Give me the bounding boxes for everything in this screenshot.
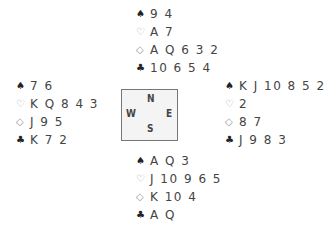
diamond-icon: ◇ [136, 188, 150, 206]
spade-icon: ♠ [136, 152, 150, 170]
east-clubs: J 9 8 3 [239, 131, 287, 149]
north-hand: ♠ 9 4 ♡ A 7 ◇ A Q 6 3 2 ♣ 10 6 5 4 [136, 5, 219, 77]
south-hearts-row: ♡ J 10 9 6 5 [136, 170, 222, 188]
spade-icon: ♠ [136, 5, 150, 23]
heart-icon: ♡ [16, 95, 30, 113]
compass-box: N W E S [121, 89, 178, 141]
east-clubs-row: ♣ J 9 8 3 [225, 131, 326, 149]
club-icon: ♣ [136, 59, 150, 77]
east-hearts: 2 [239, 95, 248, 113]
south-diamonds-row: ◇ K 10 4 [136, 188, 222, 206]
north-spades: 9 4 [150, 5, 174, 23]
east-hand: ♠ K J 10 8 5 2 ♡ 2 ◇ 8 7 ♣ J 9 8 3 [225, 77, 326, 149]
east-spades-row: ♠ K J 10 8 5 2 [225, 77, 326, 95]
north-clubs-row: ♣ 10 6 5 4 [136, 59, 219, 77]
spade-icon: ♠ [225, 77, 239, 95]
south-hand: ♠ A Q 3 ♡ J 10 9 6 5 ◇ K 10 4 ♣ A Q [136, 152, 222, 224]
west-spades: 7 6 [30, 77, 54, 95]
west-diamonds-row: ◇ J 9 5 [16, 113, 99, 131]
west-spades-row: ♠ 7 6 [16, 77, 99, 95]
south-hearts: J 10 9 6 5 [150, 170, 222, 188]
club-icon: ♣ [16, 131, 30, 149]
club-icon: ♣ [225, 131, 239, 149]
heart-icon: ♡ [136, 170, 150, 188]
north-hearts: A 7 [150, 23, 174, 41]
spade-icon: ♠ [16, 77, 30, 95]
compass-west-label: W [126, 108, 136, 119]
south-spades: A Q 3 [150, 152, 190, 170]
diamond-icon: ◇ [225, 113, 239, 131]
west-diamonds: J 9 5 [30, 113, 64, 131]
north-hearts-row: ♡ A 7 [136, 23, 219, 41]
west-clubs-row: ♣ K 7 2 [16, 131, 99, 149]
south-clubs-row: ♣ A Q [136, 206, 222, 224]
west-hand: ♠ 7 6 ♡ K Q 8 4 3 ◇ J 9 5 ♣ K 7 2 [16, 77, 99, 149]
north-clubs: 10 6 5 4 [150, 59, 212, 77]
east-spades: K J 10 8 5 2 [239, 77, 326, 95]
east-hearts-row: ♡ 2 [225, 95, 326, 113]
heart-icon: ♡ [225, 95, 239, 113]
north-diamonds: A Q 6 3 2 [150, 41, 219, 59]
south-diamonds: K 10 4 [150, 188, 197, 206]
north-diamonds-row: ◇ A Q 6 3 2 [136, 41, 219, 59]
north-spades-row: ♠ 9 4 [136, 5, 219, 23]
west-hearts-row: ♡ K Q 8 4 3 [16, 95, 99, 113]
compass-north-label: N [147, 93, 155, 104]
compass-south-label: S [147, 123, 153, 134]
diamond-icon: ◇ [136, 41, 150, 59]
east-diamonds-row: ◇ 8 7 [225, 113, 326, 131]
compass-east-label: E [166, 108, 172, 119]
west-hearts: K Q 8 4 3 [30, 95, 99, 113]
diamond-icon: ◇ [16, 113, 30, 131]
east-diamonds: 8 7 [239, 113, 263, 131]
west-clubs: K 7 2 [30, 131, 68, 149]
south-clubs: A Q [150, 206, 176, 224]
club-icon: ♣ [136, 206, 150, 224]
heart-icon: ♡ [136, 23, 150, 41]
south-spades-row: ♠ A Q 3 [136, 152, 222, 170]
